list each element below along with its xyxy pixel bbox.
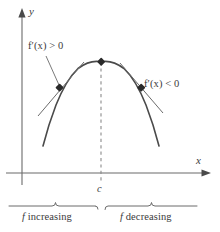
right-region-label-text: decreasing — [123, 211, 172, 222]
left-region-label-text: increasing — [25, 211, 72, 222]
y-axis — [18, 8, 25, 185]
derivative-negative-label: f′(x) < 0 — [144, 79, 179, 90]
x-axis-label: x — [196, 155, 201, 166]
left-region-label: f increasing — [22, 212, 72, 223]
maximum-point — [97, 58, 105, 66]
left-region-brace — [9, 203, 98, 210]
increasing-decreasing-diagram — [0, 0, 220, 232]
right-region-label: f decreasing — [120, 212, 172, 223]
x-axis — [6, 169, 211, 176]
right-region-brace — [105, 203, 197, 210]
leader-line-positive — [46, 56, 59, 85]
critical-value-label: c — [97, 184, 102, 195]
derivative-positive-label: f′(x) > 0 — [28, 41, 63, 52]
y-axis-label: y — [29, 6, 34, 17]
figure-container: y x f′(x) > 0 f′(x) < 0 c f increasing f… — [0, 0, 220, 232]
